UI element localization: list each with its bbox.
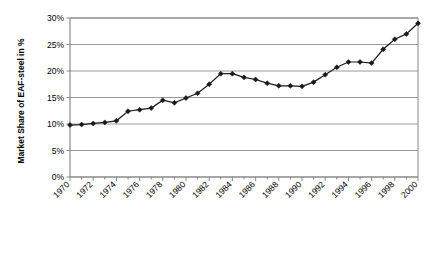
series-line bbox=[70, 23, 418, 125]
data-point-marker bbox=[242, 75, 247, 80]
data-point-marker bbox=[172, 100, 177, 105]
data-point-marker bbox=[276, 83, 281, 88]
x-tick-label: 1980 bbox=[167, 179, 188, 200]
data-point-marker bbox=[79, 122, 84, 127]
y-tick-label: 25% bbox=[47, 40, 64, 50]
data-point-marker bbox=[288, 83, 293, 88]
data-point-marker bbox=[137, 107, 142, 112]
y-tick-label: 20% bbox=[47, 66, 64, 76]
chart-container: Market Share of EAF-steel in % 197019721… bbox=[0, 0, 448, 254]
x-tick-label: 1986 bbox=[237, 179, 258, 200]
gridlines bbox=[70, 18, 418, 177]
y-axis-labels: 0%5%10%15%20%25%30% bbox=[47, 13, 64, 182]
x-tick-label: 2000 bbox=[399, 179, 420, 200]
x-tick-label: 1996 bbox=[353, 179, 374, 200]
data-point-marker bbox=[300, 84, 305, 89]
data-point-marker bbox=[358, 59, 363, 64]
x-tick-label: 1976 bbox=[121, 179, 142, 200]
x-tick-label: 1984 bbox=[213, 179, 234, 200]
data-point-marker bbox=[68, 123, 73, 128]
x-tick-label: 1990 bbox=[283, 179, 304, 200]
data-series-line bbox=[70, 23, 418, 125]
y-tick-label: 10% bbox=[47, 119, 64, 129]
data-point-marker bbox=[346, 59, 351, 64]
x-tick-label: 1974 bbox=[97, 179, 118, 200]
data-point-marker bbox=[184, 96, 189, 101]
y-tick-label: 5% bbox=[52, 146, 65, 156]
x-tick-label: 1994 bbox=[329, 179, 350, 200]
x-tick-label: 1970 bbox=[51, 179, 72, 200]
data-point-markers bbox=[68, 21, 421, 128]
data-point-marker bbox=[230, 71, 235, 76]
x-tick-label: 1978 bbox=[144, 179, 165, 200]
x-axis-labels: 1970197219741976197819801982198419861988… bbox=[51, 179, 420, 200]
x-tick-label: 1982 bbox=[190, 179, 211, 200]
chart-plot: 1970197219741976197819801982198419861988… bbox=[0, 0, 448, 254]
data-point-marker bbox=[265, 81, 270, 86]
y-tick-label: 30% bbox=[47, 13, 64, 23]
data-point-marker bbox=[91, 121, 96, 126]
x-tick-label: 1998 bbox=[376, 179, 397, 200]
data-point-marker bbox=[253, 77, 258, 82]
x-tick-label: 1992 bbox=[306, 179, 327, 200]
x-tick-label: 1988 bbox=[260, 179, 281, 200]
y-tick-label: 15% bbox=[47, 93, 64, 103]
y-tick-label: 0% bbox=[52, 172, 65, 182]
x-tick-label: 1972 bbox=[74, 179, 95, 200]
